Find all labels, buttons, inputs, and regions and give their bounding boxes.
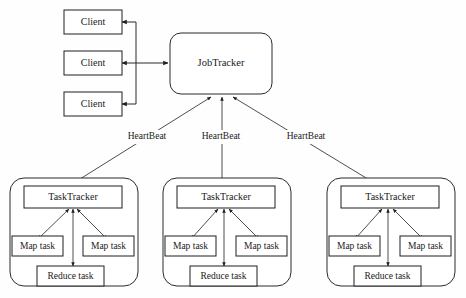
client-bus-group: [122, 22, 168, 104]
tasktracker-cluster-2: TaskTracker Map task Map task Reduce tas…: [163, 178, 291, 286]
tasktracker-3-reduce-label: Reduce task: [364, 271, 410, 281]
diagram-svg: Client Client Client JobTracker Hear: [0, 0, 466, 298]
tasktracker-2-map-left-label: Map task: [173, 241, 208, 251]
heartbeat-label-2: HeartBeat: [202, 131, 241, 141]
heartbeat-label-group-1: HeartBeat: [119, 130, 176, 144]
heartbeat-label-1: HeartBeat: [128, 131, 167, 141]
tasktracker-1-reduce-label: Reduce task: [47, 271, 93, 281]
client-box-2-label: Client: [81, 57, 106, 68]
heartbeat-label-group-3: HeartBeat: [278, 130, 335, 144]
client-box-1-label: Client: [81, 16, 106, 27]
heartbeat-label-group-2: HeartBeat: [193, 130, 250, 144]
tasktracker-3-label: TaskTracker: [365, 191, 415, 202]
jobtracker-node[interactable]: JobTracker: [170, 33, 272, 94]
tasktracker-1-map-left-label: Map task: [20, 241, 55, 251]
tasktracker-2-map-right-label: Map task: [244, 241, 279, 251]
tasktracker-2-reduce-label: Reduce task: [200, 271, 246, 281]
tasktracker-1-label: TaskTracker: [48, 191, 98, 202]
client-box-3[interactable]: Client: [64, 92, 122, 116]
tasktracker-3-map-right-label: Map task: [408, 241, 443, 251]
client-box-1[interactable]: Client: [64, 10, 122, 34]
jobtracker-label: JobTracker: [198, 57, 245, 68]
tasktracker-2-label: TaskTracker: [201, 191, 251, 202]
tasktracker-1-map-right-label: Map task: [91, 241, 126, 251]
diagram-canvas: Client Client Client JobTracker Hear: [0, 0, 466, 298]
tasktracker-cluster-3: TaskTracker Map task Map task Reduce tas…: [327, 178, 455, 286]
client-box-3-label: Client: [81, 98, 106, 109]
heartbeat-label-3: HeartBeat: [287, 131, 326, 141]
tasktracker-cluster-1: TaskTracker Map task Map task Reduce tas…: [10, 178, 138, 286]
client-box-2[interactable]: Client: [64, 51, 122, 75]
tasktracker-3-map-left-label: Map task: [337, 241, 372, 251]
